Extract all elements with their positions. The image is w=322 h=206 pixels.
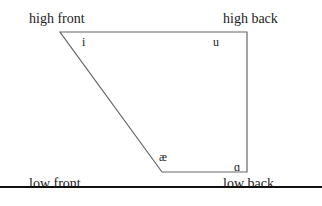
bottom-rule [0, 186, 322, 188]
label-low-front: low front [29, 176, 81, 192]
label-low-back: low back [223, 176, 274, 192]
vowel-i: i [82, 36, 85, 48]
vowel-ae: æ [159, 151, 167, 163]
label-high-back: high back [223, 11, 278, 27]
vowel-u: u [213, 36, 219, 48]
vowel-a: ɑ [234, 161, 240, 173]
label-high-front: high front [29, 11, 85, 27]
